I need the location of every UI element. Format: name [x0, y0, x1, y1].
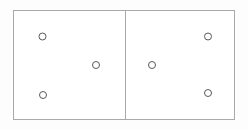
diagram-svg — [0, 0, 248, 129]
node-marker[interactable] — [39, 33, 46, 40]
node-marker[interactable] — [93, 62, 100, 69]
node-marker[interactable] — [149, 62, 156, 69]
node-marker[interactable] — [205, 33, 212, 40]
node-marker[interactable] — [205, 90, 212, 97]
node-marker[interactable] — [40, 92, 47, 99]
diagram-canvas — [0, 0, 248, 129]
diagram-frame — [14, 11, 235, 120]
